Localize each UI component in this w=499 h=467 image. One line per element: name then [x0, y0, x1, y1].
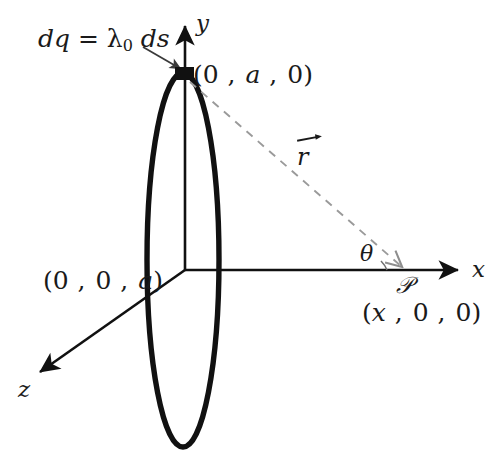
- z-axis-label: z: [18, 378, 30, 401]
- coord-sep-1: ,: [69, 266, 96, 295]
- physics-diagram-figure: dq = λ0 ds y x z (0 , a , 0) (0 , 0 , a)…: [0, 0, 499, 467]
- paren-open: (: [362, 298, 372, 327]
- paren-close: ): [303, 60, 313, 89]
- vector-arrow-accent: [296, 133, 324, 145]
- coord-z: 0: [455, 298, 471, 327]
- coord-y: a: [246, 60, 261, 89]
- y-axis-label: y: [196, 12, 209, 35]
- coord-y: 0: [96, 266, 112, 295]
- coord-z: a: [138, 266, 153, 295]
- r-symbol: r: [297, 143, 308, 171]
- theta-angle-arc: [381, 261, 387, 270]
- coord-z: 0: [287, 60, 303, 89]
- paren-close: ): [153, 266, 163, 295]
- r-vector-glyph: r: [297, 145, 308, 169]
- charged-ring: [147, 73, 219, 447]
- coord-sep-2: ,: [260, 60, 287, 89]
- ring-top-coordinate-label: (0 , a , 0): [193, 62, 313, 87]
- coord-sep-2: ,: [429, 298, 456, 327]
- dq-symbol: dq: [38, 24, 70, 53]
- dq-equals: =: [70, 24, 107, 53]
- lambda-subscript: 0: [123, 36, 133, 55]
- coord-sep-2: ,: [111, 266, 138, 295]
- lambda-symbol: λ: [107, 24, 123, 53]
- field-point-coordinate-label: (x , 0 , 0): [362, 300, 481, 325]
- coord-sep-1: ,: [219, 60, 246, 89]
- charge-element-label: dq = λ0 ds: [38, 26, 170, 54]
- charge-element-marker: [175, 67, 194, 80]
- field-point-symbol-label: 𝒫: [396, 274, 413, 297]
- theta-angle-label: θ: [360, 243, 373, 265]
- coord-x: 0: [203, 60, 219, 89]
- coord-sep-1: ,: [386, 298, 413, 327]
- paren-close: ): [471, 298, 481, 327]
- ring-z-coordinate-label: (0 , 0 , a): [43, 268, 163, 293]
- ds-symbol: ds: [133, 24, 170, 53]
- x-axis-label: x: [472, 258, 485, 281]
- r-vector-label: r: [297, 145, 308, 169]
- paren-open: (: [193, 60, 203, 89]
- coord-y: 0: [413, 298, 429, 327]
- coord-x: 0: [53, 266, 69, 295]
- paren-open: (: [43, 266, 53, 295]
- coord-x: x: [372, 298, 386, 327]
- r-vector-dashed-line: [190, 82, 401, 266]
